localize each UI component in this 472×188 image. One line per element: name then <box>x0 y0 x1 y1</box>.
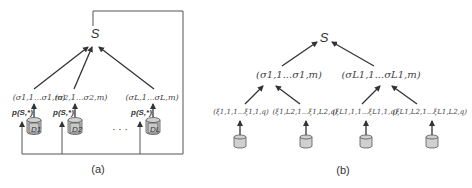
ellipsis-a: · · · <box>112 124 128 135</box>
dataset-cylinders-b <box>234 135 438 148</box>
caption-a: (a) <box>91 163 104 175</box>
xi-label-b-2: (ξ1,L2,1...ξ1,L2,q) <box>273 108 338 116</box>
xi-label-b-3: (ξL1,1,1...ξL1,1,q) <box>333 108 398 116</box>
database-icon <box>360 135 372 148</box>
root-node-a: S <box>91 26 100 41</box>
root-node-b: S <box>320 30 329 45</box>
prob-label-a-3: p(S,*) <box>131 108 152 117</box>
database-icon <box>300 135 312 148</box>
xi-label-b-1: (ξ1,1,1...ξ1,1,q) <box>213 108 269 116</box>
prob-label-a-2: p(S,*) <box>53 108 74 117</box>
prob-label-a-1: p(S,*) <box>12 108 33 117</box>
caption-b: (b) <box>336 164 349 176</box>
sigma-label-b-2: (σL1,1...σL1,m) <box>341 69 420 80</box>
database-icon <box>234 135 246 148</box>
sigma-label-b-1: (σ1,1...σ1,m) <box>256 69 322 80</box>
dataset-label-2: D2 <box>72 125 82 134</box>
arrows-to-root-a <box>34 47 154 89</box>
dataset-label-1: D1 <box>31 125 41 134</box>
sigma-label-a-3: (σL,1...σL,m) <box>125 93 178 102</box>
dataset-label-L: DL <box>150 125 160 134</box>
database-icon <box>426 135 438 148</box>
xi-label-b-4: (ξL1,L2,1...ξL1,L2,q) <box>393 108 467 116</box>
sigma-label-a-2: (σ2,1...σ2,m) <box>55 93 108 102</box>
arrows-b <box>240 42 432 135</box>
